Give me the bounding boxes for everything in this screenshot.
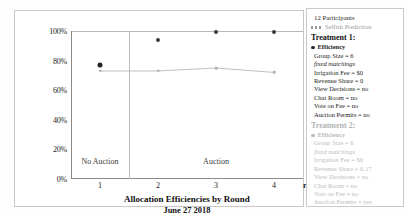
treatment-heading-2: Treatment 2: [311,121,400,131]
treatment-2-param-0: Group Size = 6 [311,139,400,147]
treatment-1-param-2: Irrigation Fee = $0 [311,69,400,77]
legend-selfish-prediction-label: Selfish Prediction [325,23,371,31]
treatment-blocks: Treatment 1:EfficiencyGroup Size = 6fixe… [311,33,400,206]
treatment-1-param-7: Auction Permits = no [311,111,400,119]
treatment-1-param-6: Vote on Fee = no [311,102,400,110]
selfish-prediction-point-r3 [215,67,218,70]
selfish-prediction-point-r4 [273,71,276,74]
x-tick-2: 2 [156,181,160,190]
efficiency-point-r2 [156,38,160,42]
region-caption-auction: Auction [203,157,229,166]
y-tick-60: 60% [53,86,67,95]
efficiency-point-r4 [272,30,276,34]
efficiency-point-r3 [214,30,218,34]
y-tick-40: 40% [53,115,67,124]
treatment-1-param-5: Chat Room = no [311,94,400,102]
treatment-1-param-0: Group Size = 6 [311,52,400,60]
chart-title: Allocation Efficiencies by Round [71,194,303,204]
treatment-1-param-4: View Decisions = no [311,85,400,93]
y-tick-0: 0% [57,175,67,184]
treatment-series-1: Efficiency [311,43,400,51]
selfish-prediction-point-r2 [157,70,160,73]
legend-panel: 12 Participants Selfish Prediction Treat… [306,8,404,207]
efficiency-series-label: Efficiency [318,43,346,51]
treatment-1-param-3: Revenue Share = 0 [311,77,400,85]
efficiency-dot-icon [311,134,315,138]
efficiency-dot-icon [311,46,315,50]
x-tick-3: 3 [214,181,218,190]
treatment-block-2: Treatment 2:EfficiencyGroup Size = 6fixe… [311,121,400,207]
x-axis-tick-labels: 1234 [71,181,303,195]
y-tick-20: 20% [53,145,67,154]
dashed-line-icon [311,26,323,29]
plot-area: No AuctionAuction [71,31,303,179]
y-tick-100: 100% [49,27,67,36]
treatment-block-1: Treatment 1:EfficiencyGroup Size = 6fixe… [311,33,400,119]
treatment-2-param-3: Revenue Share = 0.17 [311,165,400,173]
efficiency-series-label: Efficiency [318,131,346,139]
y-tick-80: 80% [53,56,67,65]
participants-count: 12 Participants [311,13,400,22]
treatment-series-2: Efficiency [311,131,400,139]
chart-panel: 100%80%60%40%20%0% No AuctionAuction 123… [14,10,304,207]
region-caption-no-auction: No Auction [81,157,118,166]
treatment-2-param-7: Auction Permits = yes [311,198,400,206]
legend-selfish-prediction: Selfish Prediction [311,23,400,31]
treatment-heading-1: Treatment 1: [311,33,400,43]
treatment-1-param-1: fixed matchings [311,60,400,68]
treatment-2-param-5: Chat Room = no [311,182,400,190]
screenshot-root: 100%80%60%40%20%0% No AuctionAuction 123… [0,0,409,213]
selfish-prediction-point-r1 [99,70,102,73]
treatment-2-param-6: Vote on Fee = no [311,190,400,198]
treatment-2-param-2: Irrigation Fee = $0 [311,156,400,164]
y-axis-tick-labels: 100%80%60%40%20%0% [33,31,67,179]
treatment-2-param-1: fixed matchings [311,148,400,156]
chart-subtitle: June 27 2018 [71,205,303,213]
x-tick-1: 1 [98,181,102,190]
efficiency-point-r1 [98,63,103,68]
treatment-2-param-4: View Decisions = no [311,173,400,181]
x-tick-4: 4 [272,181,276,190]
